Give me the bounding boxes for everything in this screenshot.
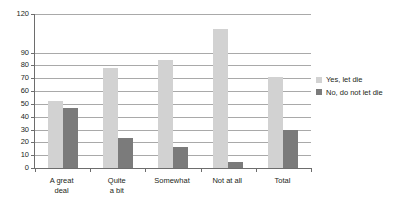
bar-group bbox=[145, 14, 200, 168]
bar bbox=[213, 29, 228, 168]
legend-item[interactable]: No, do not let die bbox=[316, 89, 383, 97]
x-axis-tick bbox=[201, 168, 202, 172]
bar bbox=[158, 60, 173, 168]
legend-item-label: Yes, let die bbox=[326, 76, 362, 84]
bar bbox=[63, 108, 78, 168]
chart-legend: Yes, let dieNo, do not let die bbox=[316, 76, 383, 96]
y-axis-label: 70 bbox=[21, 74, 29, 82]
y-axis-label: 60 bbox=[21, 87, 29, 95]
y-axis-label: 40 bbox=[21, 113, 29, 121]
y-axis-label: 30 bbox=[21, 126, 29, 134]
y-axis-label: 90 bbox=[21, 49, 29, 57]
legend-swatch-icon bbox=[316, 77, 322, 83]
y-axis-label: 120 bbox=[16, 10, 29, 18]
legend-item[interactable]: Yes, let die bbox=[316, 76, 383, 84]
bar-group bbox=[35, 14, 90, 168]
x-axis-category-label: Quitea bit bbox=[89, 176, 144, 195]
y-axis-label: 80 bbox=[21, 62, 29, 70]
bar bbox=[268, 77, 283, 168]
y-axis-label: 0 bbox=[25, 164, 29, 172]
bar bbox=[228, 162, 243, 168]
legend-swatch-icon bbox=[316, 89, 322, 95]
bar bbox=[283, 130, 298, 169]
x-axis-category-label-line: Not at all bbox=[200, 176, 255, 186]
bar-group bbox=[201, 14, 256, 168]
bar bbox=[118, 138, 133, 168]
x-axis-category-label: Total bbox=[255, 176, 310, 195]
x-axis-tick bbox=[256, 168, 257, 172]
x-axis-tick bbox=[311, 168, 312, 172]
bar-groups bbox=[35, 14, 311, 168]
plot-area: 1209080706050403020100 bbox=[34, 14, 311, 169]
x-axis-labels: A greatdealQuitea bitSomewhatNot at allT… bbox=[34, 176, 310, 195]
x-axis-tick bbox=[145, 168, 146, 172]
y-axis-label: 10 bbox=[21, 151, 29, 159]
y-axis-label: 50 bbox=[21, 100, 29, 108]
bar-chart: 1209080706050403020100 A greatdealQuitea… bbox=[0, 0, 396, 206]
legend-item-label: No, do not let die bbox=[326, 89, 383, 97]
x-axis-category-label: A greatdeal bbox=[34, 176, 89, 195]
bar bbox=[103, 68, 118, 168]
x-axis-category-label-line: A great bbox=[34, 176, 89, 186]
x-axis-tick bbox=[35, 168, 36, 172]
bar bbox=[48, 101, 63, 168]
bar-group bbox=[90, 14, 145, 168]
x-axis-category-label-line: deal bbox=[34, 186, 89, 196]
x-axis-category-label-line: Total bbox=[255, 176, 310, 186]
y-axis-label: 20 bbox=[21, 139, 29, 147]
x-axis-category-label: Not at all bbox=[200, 176, 255, 195]
x-axis-category-label-line: a bit bbox=[89, 186, 144, 196]
x-axis-category-label-line: Quite bbox=[89, 176, 144, 186]
bar bbox=[173, 147, 188, 168]
x-axis-category-label-line: Somewhat bbox=[144, 176, 199, 186]
bar-group bbox=[256, 14, 311, 168]
x-axis-category-label: Somewhat bbox=[144, 176, 199, 195]
x-axis-tick bbox=[90, 168, 91, 172]
